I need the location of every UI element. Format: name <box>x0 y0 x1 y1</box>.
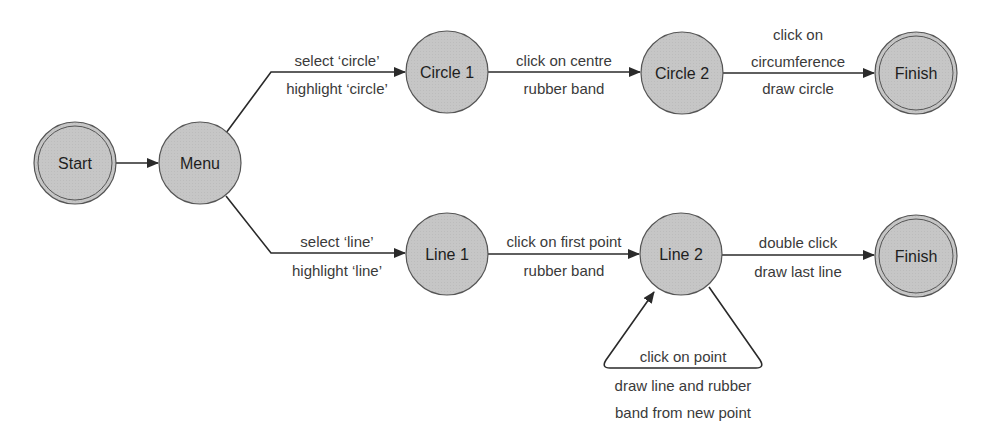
edge-event-label: click on centre <box>516 52 612 69</box>
edge-event-label: double click <box>759 234 838 251</box>
edge-event-label: click on first point <box>506 233 622 250</box>
state-label: Line 1 <box>425 246 469 263</box>
state-label: Line 2 <box>659 246 703 263</box>
state-label: Finish <box>895 65 938 82</box>
edge-action-label: rubber band <box>524 80 605 97</box>
state-label: Finish <box>895 248 938 265</box>
state-finish-circle: Finish <box>875 32 957 114</box>
state-label: Menu <box>180 155 220 172</box>
state-start: Start <box>34 122 116 204</box>
edge-event-label-line2: circumference <box>751 53 845 70</box>
edge-action-label: rubber band <box>524 262 605 279</box>
edge-action-label-line1: draw line and rubber <box>615 377 752 394</box>
edge-action-label: draw last line <box>754 263 842 280</box>
state-label: Circle 2 <box>655 65 709 82</box>
state-line2: Line 2 <box>640 213 722 295</box>
edge-line1-to-line2: click on first point rubber band <box>488 233 639 279</box>
state-diagram: select ‘circle’ highlight ‘circle’ click… <box>0 0 994 443</box>
edge-action-label-line2: band from new point <box>615 404 752 421</box>
edge-event-label: select ‘line’ <box>300 233 373 250</box>
state-menu: Menu <box>159 122 241 204</box>
edge-circle1-to-circle2: click on centre rubber band <box>488 52 640 97</box>
edge-event-label-line1: click on <box>773 26 823 43</box>
state-finish-line: Finish <box>875 215 957 297</box>
state-circle2: Circle 2 <box>641 32 723 114</box>
edge-line2-self-loop: click on point draw line and rubber band… <box>604 287 762 421</box>
edge-line2-to-finish: double click draw last line <box>722 234 874 280</box>
state-circle1: Circle 1 <box>406 31 488 113</box>
edge-circle2-to-finish: click on circumference draw circle <box>723 26 874 97</box>
edge-event-label: click on point <box>640 348 728 365</box>
edge-action-label: highlight ‘circle’ <box>286 80 388 97</box>
state-label: Circle 1 <box>420 64 474 81</box>
state-line1: Line 1 <box>406 213 488 295</box>
edge-action-label: highlight ‘line’ <box>292 262 382 279</box>
edge-menu-to-line1: select ‘line’ highlight ‘line’ <box>226 196 405 279</box>
edge-action-label: draw circle <box>762 80 834 97</box>
state-label: Start <box>58 155 92 172</box>
edge-menu-to-circle1: select ‘circle’ highlight ‘circle’ <box>226 52 405 133</box>
edge-event-label: select ‘circle’ <box>294 52 379 69</box>
